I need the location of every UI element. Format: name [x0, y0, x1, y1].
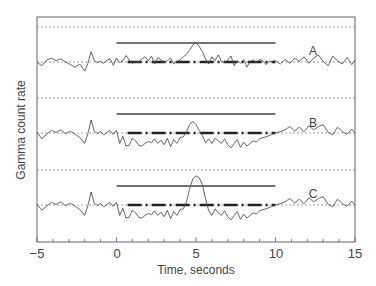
dotted-reference-lines: [37, 27, 355, 205]
gamma-count-chart: −5 0 5 10 15 Time, seconds Gamma count r…: [0, 0, 376, 286]
series-label-c: C: [309, 187, 318, 201]
plot-frame: [37, 17, 355, 242]
series-label-a: A: [309, 44, 317, 58]
x-tick-label-neg5: −5: [30, 246, 45, 261]
x-axis-ticks: [37, 237, 355, 242]
x-axis-title: Time, seconds: [157, 263, 235, 277]
x-tick-label-5: 5: [192, 246, 199, 261]
trace-series-c: [37, 176, 355, 220]
y-axis-title: Gamma count rate: [14, 80, 28, 180]
x-tick-label-10: 10: [269, 246, 283, 261]
x-tick-label-15: 15: [348, 246, 362, 261]
series-traces: [37, 43, 355, 220]
series-label-b: B: [309, 116, 317, 130]
trace-series-b: [37, 120, 355, 148]
x-tick-label-0: 0: [113, 246, 120, 261]
trace-series-a: [37, 43, 355, 72]
